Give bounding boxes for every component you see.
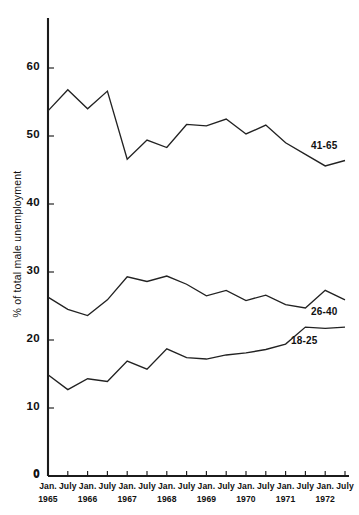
- chart-canvas: [0, 0, 359, 515]
- data-line-26-40: [48, 276, 345, 315]
- tick-marks-group: [48, 68, 345, 476]
- data-line-41-65: [48, 90, 345, 166]
- chart-page: % of total male unemployment 01020304050…: [0, 0, 359, 515]
- data-lines-group: [48, 90, 345, 390]
- data-line-18-25: [48, 327, 345, 390]
- axis-group: [48, 18, 349, 476]
